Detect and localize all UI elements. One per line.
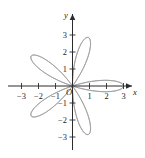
x-axis-label: x bbox=[132, 87, 137, 97]
y-tick-label: 1 bbox=[63, 65, 67, 74]
y-axis-label: y bbox=[63, 10, 68, 20]
x-tick-label: 1 bbox=[87, 92, 91, 101]
x-tick-label: −2 bbox=[34, 92, 43, 101]
y-axis-arrow-icon bbox=[70, 14, 76, 20]
x-axis-arrow-icon bbox=[126, 83, 132, 89]
y-tick-label: −3 bbox=[58, 133, 67, 142]
x-tick-label: 2 bbox=[104, 92, 108, 101]
x-tick-label: −3 bbox=[17, 92, 26, 101]
y-tick-label: −2 bbox=[58, 116, 67, 125]
y-tick-label: 2 bbox=[63, 48, 67, 57]
axes-group bbox=[8, 14, 132, 150]
origin-label: O bbox=[66, 88, 72, 97]
polar-rose-figure: −3−2−1123321−1−2−3 x y O bbox=[0, 0, 145, 158]
plot-canvas: −3−2−1123321−1−2−3 x y O bbox=[0, 0, 145, 158]
x-tick-label: 3 bbox=[121, 92, 125, 101]
y-tick-label: −1 bbox=[58, 99, 67, 108]
y-tick-label: 3 bbox=[63, 31, 67, 40]
